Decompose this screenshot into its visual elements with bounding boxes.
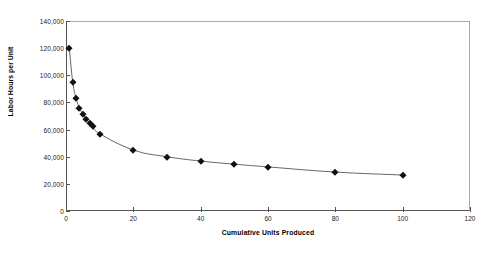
x-axis-title: Cumulative Units Produced: [66, 229, 470, 236]
x-axis-tick-label: 80: [315, 215, 355, 222]
x-axis-tick-label: 20: [113, 215, 153, 222]
y-axis-title: Labor Hours per Unit: [7, 34, 14, 130]
x-axis-tick-label: 60: [248, 215, 288, 222]
x-axis-tick-mark: [470, 207, 471, 212]
x-axis-tick-label: 0: [46, 215, 86, 222]
y-axis-tick-label: 40,000: [16, 153, 64, 160]
y-axis-tick-label: 140,000: [16, 18, 64, 25]
y-axis-tick-label: 100,000: [16, 72, 64, 79]
y-axis-tick-label: 80,000: [16, 99, 64, 106]
x-axis-tick-label: 40: [181, 215, 221, 222]
plot-area: [66, 21, 470, 211]
y-axis-tick-label: 20,000: [16, 180, 64, 187]
series-line-path: [69, 48, 402, 175]
y-axis-tick-label: 0: [16, 208, 64, 215]
y-axis-tick-label: 120,000: [16, 45, 64, 52]
y-axis-tick-label: 60,000: [16, 126, 64, 133]
x-axis-tick-label: 120: [450, 215, 490, 222]
learning-curve-chart: 020,00040,00060,00080,000100,000120,0001…: [0, 0, 502, 255]
series-line: [66, 21, 470, 211]
x-axis-tick-label: 100: [383, 215, 423, 222]
